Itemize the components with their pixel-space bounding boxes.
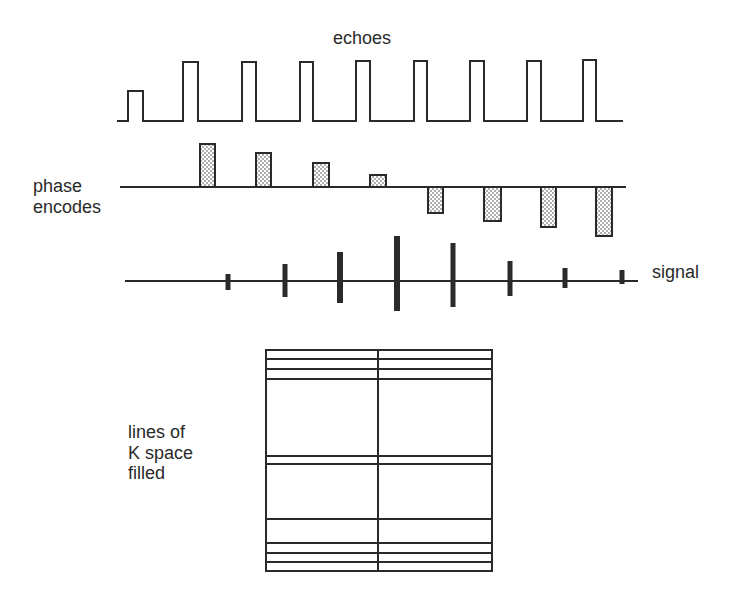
kspace-label-line1: lines of — [128, 422, 186, 442]
kspace-label-line2: K space — [128, 443, 193, 463]
phase-label-line2: encodes — [33, 197, 101, 217]
echo-pulse-train — [117, 60, 623, 121]
signal-spike — [283, 264, 288, 297]
kspace-grid — [266, 350, 492, 571]
phase-encode-bar — [596, 187, 612, 236]
phase-encode-bar — [256, 153, 271, 187]
signal-spike — [226, 274, 231, 290]
phase-encode-bar — [484, 187, 501, 221]
signal-spike — [563, 268, 568, 288]
phase-encode-bar — [541, 187, 556, 227]
phase-encode-bar — [200, 144, 215, 187]
signal-trace — [125, 236, 638, 311]
phase-encode-bar — [313, 163, 329, 187]
phase-encode-bar — [428, 187, 443, 213]
signal-spike — [337, 252, 343, 303]
kspace-filling-diagram: echoes phase encodes signal lines of K s… — [0, 0, 741, 606]
signal-spike — [620, 270, 625, 284]
signal-spike — [451, 243, 456, 307]
kspace-label-line3: filled — [128, 463, 165, 483]
phase-encode-bar — [370, 175, 386, 187]
phase-label-line1: phase — [33, 176, 82, 196]
echoes-label: echoes — [333, 28, 391, 48]
phase-encode-gradients — [120, 144, 626, 236]
signal-spike — [394, 236, 400, 311]
signal-spike — [508, 261, 513, 296]
signal-label: signal — [652, 262, 699, 282]
